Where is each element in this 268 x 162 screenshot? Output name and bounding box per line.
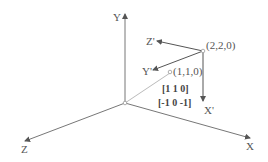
z-axis [25, 103, 125, 141]
z-axis-label: Z [21, 144, 28, 155]
vector-2-label: [-1 0 -1] [158, 98, 191, 108]
x-prime-label: X' [204, 105, 214, 116]
point-2-2-0 [201, 49, 205, 53]
y-prime-label: Y' [142, 66, 152, 77]
z-prime-label: Z' [146, 36, 155, 47]
point-1-1-0 [168, 70, 172, 74]
coordinate-diagram [0, 0, 268, 162]
point-2-2-0-label: (2,2,0) [206, 40, 235, 51]
y-axis-label: Y [113, 12, 121, 23]
z-prime-axis [157, 41, 203, 51]
point-1-1-0-label: (1,1,0) [173, 66, 202, 77]
origin-point [123, 101, 127, 105]
x-axis [125, 103, 250, 138]
vector-1-label: [1 1 0] [162, 84, 189, 94]
x-axis-label: X [246, 141, 254, 152]
